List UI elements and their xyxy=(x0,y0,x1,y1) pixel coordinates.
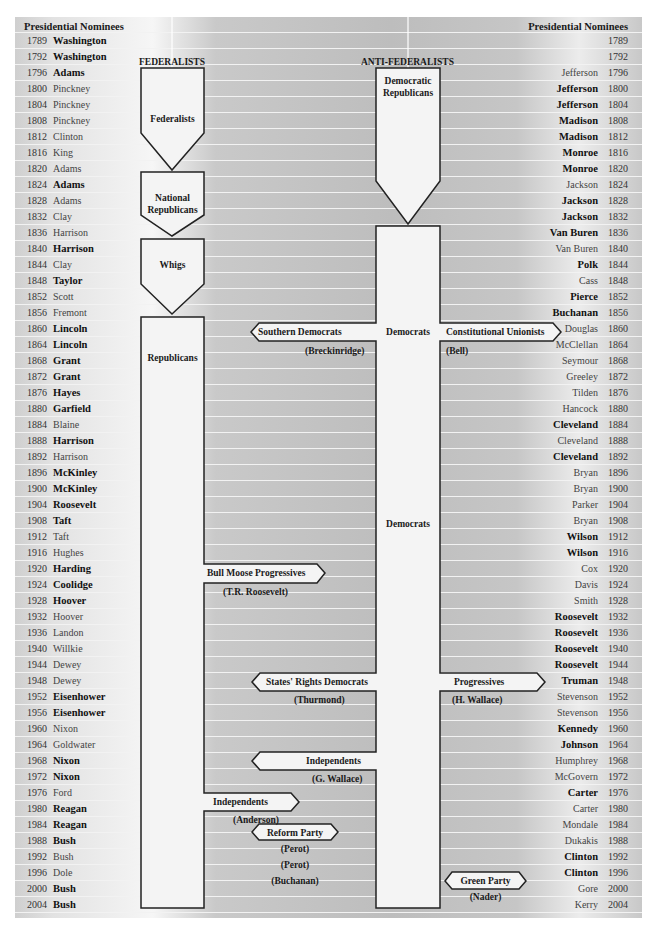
nominees-diagram: Presidential Nominees Presidential Nomin… xyxy=(15,17,642,918)
democratic-republicans-line1: Democratic xyxy=(376,75,440,87)
states-rights-label: States' Rights Democrats xyxy=(266,676,368,688)
h-wallace-label: (H. Wallace) xyxy=(452,694,502,706)
democratic-republicans-label: Democratic Republicans xyxy=(376,75,440,99)
buchanan-label: (Buchanan) xyxy=(259,875,331,887)
federalists-label: Federalists xyxy=(141,113,204,125)
whigs-label: Whigs xyxy=(141,259,204,271)
democratic-republicans-line2: Republicans xyxy=(376,87,440,99)
independents-1980-label: Independents xyxy=(213,796,268,808)
tr-roosevelt-label: (T.R. Roosevelt) xyxy=(223,586,288,598)
anderson-label: (Anderson) xyxy=(233,814,279,826)
national-republicans-label: National Republicans xyxy=(141,192,204,216)
breckinridge-label: (Breckinridge) xyxy=(305,345,364,357)
independents-1968-label: Independents xyxy=(306,755,361,767)
thurmond-label: (Thurmond) xyxy=(294,694,345,706)
republicans-label: Republicans xyxy=(141,352,204,364)
g-wallace-label: (G. Wallace) xyxy=(312,773,362,785)
anti-federalists-section-label: ANTI-FEDERALISTS xyxy=(361,57,454,67)
bell-label: (Bell) xyxy=(446,345,468,357)
national-republicans-line2: Republicans xyxy=(141,204,204,216)
bull-moose-label: Bull Moose Progressives xyxy=(207,567,305,579)
nader-label: (Nader) xyxy=(452,891,519,903)
democrats-label: Democrats xyxy=(376,518,440,530)
federalists-section-label: FEDERALISTS xyxy=(139,57,205,67)
southern-democrats-label: Southern Democrats xyxy=(258,326,342,338)
progressives-1948-label: Progressives xyxy=(454,676,504,688)
national-republicans-line1: National xyxy=(141,192,204,204)
reform-party-label: Reform Party xyxy=(259,827,331,839)
green-party-label: Green Party xyxy=(452,875,519,887)
perot-1996-label: (Perot) xyxy=(259,859,331,871)
constitutional-unionists-label: Constitutional Unionists xyxy=(446,326,544,338)
democrats-1860-label: Democrats xyxy=(376,326,440,338)
whigs-arrow xyxy=(141,239,204,314)
perot-1992-label: (Perot) xyxy=(259,843,331,855)
